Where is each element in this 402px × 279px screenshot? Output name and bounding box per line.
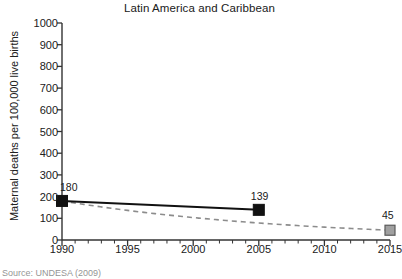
y-tick-label-700: 700	[18, 82, 58, 94]
y-tick-label-800: 800	[18, 60, 58, 72]
axes	[57, 23, 390, 246]
x-tick-label-1990: 1990	[50, 243, 74, 255]
y-tick-label-400: 400	[18, 147, 58, 159]
y-tick-label-300: 300	[18, 169, 58, 181]
x-tick-label-1995: 1995	[115, 243, 139, 255]
y-tick-label-200: 200	[18, 191, 58, 203]
point-label-139: 139	[251, 190, 269, 202]
data-series	[57, 195, 396, 235]
point-label-45: 45	[382, 209, 394, 221]
x-tick-label-2010: 2010	[312, 243, 336, 255]
x-tick-label-2015: 2015	[378, 243, 402, 255]
source-note: Source: UNDESA (2009)	[2, 268, 101, 278]
x-tick-label-2005: 2005	[247, 243, 271, 255]
y-tick-label-900: 900	[18, 39, 58, 51]
y-tick-label-100: 100	[18, 212, 58, 224]
y-tick-label-500: 500	[18, 126, 58, 138]
x-tick-label-2000: 2000	[181, 243, 205, 255]
point-label-180: 180	[60, 181, 78, 193]
y-tick-label-600: 600	[18, 104, 58, 116]
y-tick-label-1000: 1000	[18, 17, 58, 29]
y-axis-tick-labels: 01002003004005006007008009001000	[16, 0, 58, 279]
chart-title: Latin America and Caribbean	[0, 2, 399, 14]
